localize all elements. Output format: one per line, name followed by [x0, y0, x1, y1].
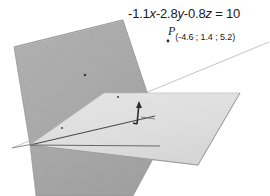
tilted-plane-point-marker-2	[61, 127, 63, 129]
normal-vector-foot	[133, 123, 137, 124]
plane-diagram-figure: -1.1x-2.8y-0.8z = 10 P(-4.6 ; 1.4 ; 5.2)	[0, 0, 270, 196]
tilted-plane-point-marker-3	[117, 96, 119, 98]
point-p-marker	[167, 40, 170, 43]
tilted-plane-point-marker	[84, 74, 87, 77]
geometry-scene	[0, 0, 270, 196]
